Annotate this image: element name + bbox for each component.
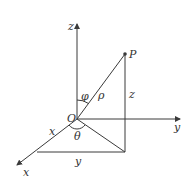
point-p-label: P <box>128 48 137 61</box>
point-p-marker <box>123 52 127 56</box>
spherical-coordinates-diagram: z P φ ρ z O y x θ y x <box>0 0 194 186</box>
x-axis-label: x <box>23 166 30 179</box>
base-projection-line <box>77 119 125 152</box>
z-segment-label: z <box>128 88 135 101</box>
origin-label: O <box>67 112 76 125</box>
theta-arc <box>69 125 85 129</box>
phi-label: φ <box>81 90 89 103</box>
x-axis <box>17 119 77 165</box>
z-axis-label: z <box>67 20 74 33</box>
y-segment-label: y <box>74 155 82 168</box>
rho-label: ρ <box>97 89 105 102</box>
rho-line <box>77 54 125 119</box>
x-segment-label: x <box>49 125 56 138</box>
theta-label: θ <box>74 130 81 143</box>
y-axis-label: y <box>173 121 181 134</box>
